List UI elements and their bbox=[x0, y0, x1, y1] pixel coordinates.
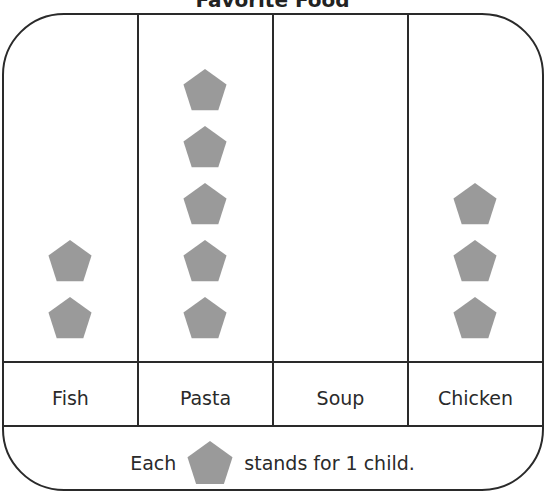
pentagon-icon bbox=[47, 296, 93, 340]
pentagon-icon bbox=[182, 182, 228, 226]
category-row-top-line bbox=[2, 361, 542, 363]
category-label-soup: Soup bbox=[274, 378, 407, 418]
column-divider bbox=[272, 13, 274, 426]
column-divider bbox=[137, 13, 139, 426]
pentagon-icon bbox=[452, 239, 498, 283]
chart-key: Each stands for 1 child. bbox=[0, 440, 545, 486]
key-suffix: stands for 1 child. bbox=[244, 452, 414, 474]
pentagon-icon bbox=[182, 125, 228, 169]
category-label-pasta: Pasta bbox=[139, 378, 272, 418]
column-divider bbox=[407, 13, 409, 426]
pentagon-icon bbox=[182, 239, 228, 283]
pentagon-icon bbox=[186, 440, 234, 486]
category-row-bottom-line bbox=[2, 425, 542, 427]
pentagon-icon bbox=[47, 239, 93, 283]
category-label-chicken: Chicken bbox=[409, 378, 542, 418]
key-prefix: Each bbox=[130, 452, 176, 474]
chart-title: Favorite Food bbox=[0, 0, 545, 12]
pentagon-icon bbox=[452, 296, 498, 340]
category-label-fish: Fish bbox=[4, 378, 137, 418]
pentagon-icon bbox=[452, 182, 498, 226]
pentagon-icon bbox=[182, 296, 228, 340]
pentagon-icon bbox=[182, 68, 228, 112]
